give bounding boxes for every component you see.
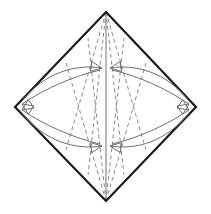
origami-diagram-canvas: Origami fold diagram — square base petal… [0, 0, 211, 214]
origami-fold-diagram: Origami fold diagram — square base petal… [0, 0, 211, 214]
